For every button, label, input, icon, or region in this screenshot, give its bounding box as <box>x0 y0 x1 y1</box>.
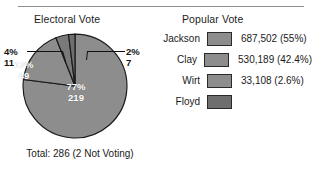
popular-vote-legend: Jackson 687,502 (55%) Clay 530,189 (42.4… <box>156 28 312 112</box>
pie-label-jackson-percent: 77% <box>56 82 96 93</box>
pie-label-floyd-value: 7 <box>126 57 140 68</box>
legend-value-wirt: 33,108 (2.6%) <box>232 75 304 86</box>
top-divider-rule <box>18 6 304 7</box>
pie-label-wirt: 4% 11 <box>4 46 18 68</box>
legend-value-clay: 530,189 (42.4%) <box>229 54 312 65</box>
legend-swatch-floyd <box>207 95 232 109</box>
pie-label-wirt-value: 11 <box>4 57 18 68</box>
legend-row: Clay 530,189 (42.4%) <box>156 49 312 70</box>
pie-label-jackson-value: 219 <box>56 93 96 104</box>
legend-row: Wirt 33,108 (2.6%) <box>156 70 312 91</box>
legend-row: Floyd <box>156 91 312 112</box>
pie-label-jackson: 77% 219 <box>56 82 96 103</box>
pie-label-floyd: 2% 7 <box>126 46 140 68</box>
leader-line-wirt <box>27 51 63 52</box>
legend-label-clay: Clay <box>156 54 204 65</box>
legend-value-jackson: 687,502 (55%) <box>232 33 307 44</box>
figure-root: Electoral Vote Popular Vote 77% 219 17% <box>0 0 312 174</box>
pie-label-floyd-percent: 2% <box>126 46 140 57</box>
electoral-vote-panel: 77% 219 17% 49 4% 11 2% 7 Total: 286 (2 … <box>0 24 156 174</box>
leader-line-floyd <box>87 51 125 52</box>
legend-label-floyd: Floyd <box>156 96 207 107</box>
legend-label-wirt: Wirt <box>156 75 207 86</box>
electoral-total-caption: Total: 286 (2 Not Voting) <box>6 148 154 159</box>
legend-swatch-jackson <box>207 32 232 46</box>
popular-vote-title: Popular Vote <box>182 13 243 25</box>
pie-label-clay-value: 49 <box>7 71 41 82</box>
legend-row: Jackson 687,502 (55%) <box>156 28 312 49</box>
legend-label-jackson: Jackson <box>156 33 207 44</box>
pie-label-wirt-percent: 4% <box>4 46 18 57</box>
legend-swatch-wirt <box>207 74 232 88</box>
legend-swatch-clay <box>204 53 229 67</box>
